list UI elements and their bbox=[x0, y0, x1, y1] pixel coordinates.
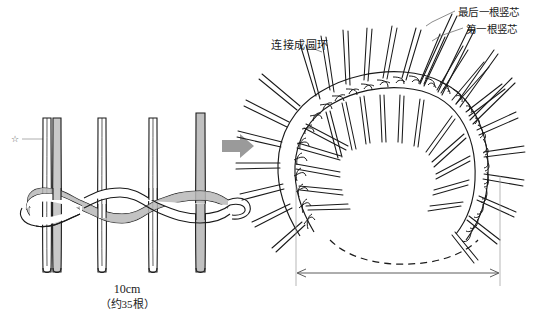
label-last-vertical-core: 最后一根竖芯 bbox=[458, 4, 520, 19]
dimension-count-wrap: （约35根） bbox=[0, 295, 542, 311]
star-glyph: ☆ bbox=[11, 134, 19, 144]
label-connect-into-ring: 连接成圆环 bbox=[271, 36, 329, 52]
label-first-vertical-core: 第一根竖芯 bbox=[466, 21, 518, 36]
dimension-value: 10cm bbox=[114, 282, 141, 296]
dimension-count: （约35根） bbox=[100, 298, 155, 310]
